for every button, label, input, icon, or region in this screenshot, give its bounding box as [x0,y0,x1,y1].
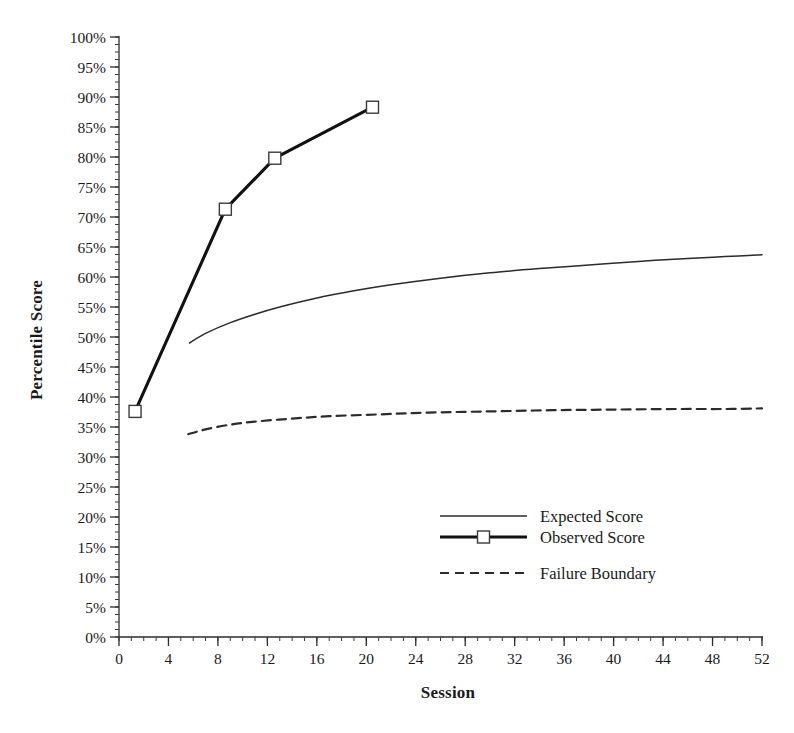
x-tick-label: 12 [260,650,276,667]
data-point-marker [366,101,378,113]
legend-label: Observed Score [540,528,645,547]
y-tick-label: 35% [78,419,107,436]
series-line [188,408,762,434]
x-tick-label: 4 [165,650,173,667]
y-tick-label: 50% [78,329,107,346]
series-line [135,107,372,411]
y-tick-label: 95% [78,59,107,76]
x-tick-label: 16 [309,650,325,667]
x-tick-label: 24 [408,650,424,667]
x-tick-label: 44 [655,650,671,667]
x-tick-label: 8 [214,650,222,667]
series-line [189,255,762,343]
y-tick-label: 0% [85,629,106,646]
y-tick-label: 10% [78,569,107,586]
x-axis-title: Session [348,683,548,703]
x-tick-label: 28 [457,650,473,667]
x-tick-label: 52 [754,650,770,667]
y-tick-label: 70% [78,209,107,226]
legend: Expected ScoreObserved ScoreFailure Boun… [440,507,657,583]
y-tick-label: 85% [78,119,107,136]
y-tick-label: 60% [78,269,107,286]
x-tick-label: 40 [606,650,622,667]
y-tick-label: 20% [78,509,107,526]
x-axis: 0481216202428323640444852 [115,637,770,667]
x-tick-label: 36 [556,650,572,667]
y-tick-label: 75% [78,179,107,196]
y-tick-label: 45% [78,359,107,376]
y-tick-label: 25% [78,479,107,496]
y-tick-label: 40% [78,389,107,406]
x-tick-label: 20 [359,650,375,667]
y-tick-label: 90% [78,89,107,106]
legend-label: Expected Score [540,507,643,526]
y-tick-label: 100% [70,29,106,46]
legend-label: Failure Boundary [540,564,657,583]
y-axis: 0%5%10%15%20%25%30%35%40%45%50%55%60%65%… [70,29,119,646]
y-tick-label: 5% [85,599,106,616]
plot-area: 0%5%10%15%20%25%30%35%40%45%50%55%60%65%… [0,0,794,733]
y-tick-label: 55% [78,299,107,316]
y-axis-title: Percentile Score [27,240,47,440]
data-point-marker [219,203,231,215]
data-point-marker [129,405,141,417]
y-tick-label: 65% [78,239,107,256]
y-tick-label: 80% [78,149,107,166]
data-point-marker [269,152,281,164]
x-tick-label: 0 [115,650,123,667]
x-tick-label: 48 [705,650,721,667]
percentile-score-chart: 0%5%10%15%20%25%30%35%40%45%50%55%60%65%… [0,0,794,733]
legend-marker [478,531,490,543]
y-tick-label: 30% [78,449,107,466]
data-series-group [129,101,762,434]
x-tick-label: 32 [507,650,523,667]
y-tick-label: 15% [78,539,107,556]
